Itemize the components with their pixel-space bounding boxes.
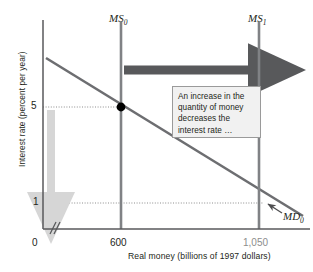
curve-label-ms1-main: MS (248, 12, 263, 24)
curve-label-ms1-sub: 1 (263, 18, 267, 27)
curve-label-ms0-main: MS (109, 12, 124, 24)
chart-canvas (0, 0, 313, 272)
equilibrium-point (117, 103, 126, 112)
x-tick-label-600: 600 (110, 238, 127, 248)
curve-label-md0-main: MD (283, 210, 300, 222)
money-market-chart: Interest rate (percent per year) Real mo… (0, 0, 313, 272)
curve-label-ms1: MS1 (248, 12, 266, 27)
annotation-callout: An increase in the quantity of money dec… (172, 86, 261, 138)
curve-label-md0: MD0 (283, 210, 304, 225)
annotation-text: An increase in the quantity of money dec… (178, 91, 255, 136)
y-tick-label-5: 5 (31, 101, 37, 111)
curve-label-md0-sub: 0 (300, 216, 304, 225)
md0-leader-line (268, 204, 282, 213)
x-tick-label-0: 0 (32, 238, 38, 248)
curve-label-ms0-sub: 0 (124, 18, 128, 27)
x-axis-title: Real money (billions of 1997 dollars) (128, 252, 271, 261)
x-tick-label-1050: 1,050 (243, 238, 268, 248)
curve-label-ms0: MS0 (109, 12, 127, 27)
y-axis-title: Interest rate (percent per year) (18, 29, 26, 189)
y-tick-label-1: 1 (33, 197, 39, 207)
